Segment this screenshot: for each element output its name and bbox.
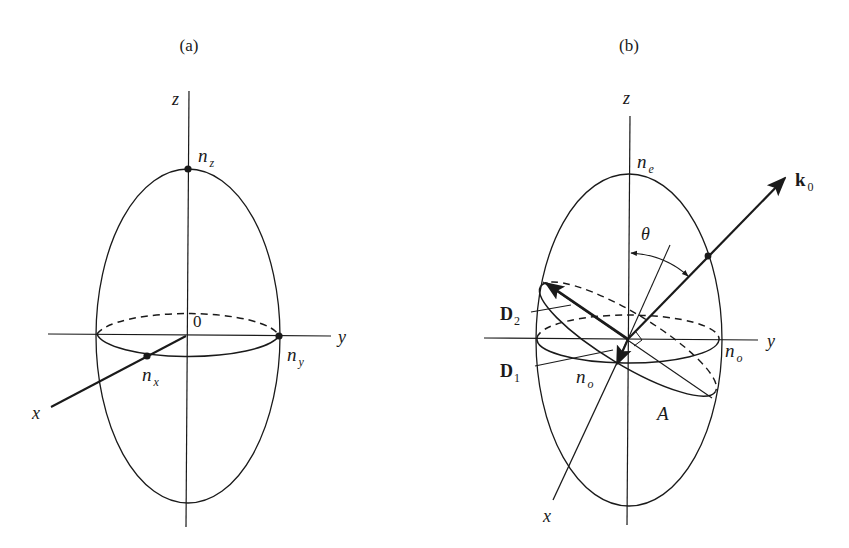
panel-a: (a) z y 0 x nz ny nx	[31, 36, 346, 527]
y-axis	[48, 334, 331, 336]
y-axis	[484, 338, 758, 340]
k0-surface-point	[705, 253, 712, 260]
d2-label: D2	[500, 304, 520, 328]
no-front-label: no	[576, 366, 594, 391]
x-axis-label: x	[31, 403, 40, 423]
z-axis-label: z	[622, 88, 630, 108]
theta-label: θ	[641, 224, 650, 244]
z-axis-label: z	[171, 89, 179, 109]
z-axis	[186, 91, 189, 527]
theta-angle-arc	[631, 253, 688, 276]
d1-label: D1	[500, 361, 520, 385]
z-axis	[627, 116, 630, 525]
nx-point	[143, 352, 150, 359]
ne-label: ne	[637, 151, 655, 176]
y-axis-label: y	[336, 327, 346, 347]
nz-label: nz	[198, 145, 215, 170]
d1-leader-line	[535, 350, 613, 366]
panel-b: (b) z y x θ	[484, 36, 814, 526]
k0-label: k0	[795, 169, 814, 194]
origin-label: 0	[193, 312, 202, 331]
nz-point	[184, 165, 191, 172]
x-axis-label: x	[542, 506, 551, 526]
y-axis-label: y	[765, 331, 775, 351]
d1-vector-arrow	[617, 339, 628, 364]
panel-a-caption: (a)	[180, 36, 199, 55]
ny-label: ny	[287, 344, 305, 369]
panel-b-caption: (b)	[619, 36, 639, 55]
x-axis	[51, 336, 186, 407]
nx-label: nx	[142, 364, 160, 389]
no-right-label: no	[725, 340, 743, 365]
index-ellipsoid-figure: (a) z y 0 x nz ny nx (b) z y	[0, 0, 849, 548]
tilted-reference-line	[628, 245, 670, 339]
optic-axis-label: A	[655, 403, 669, 424]
equator-front	[97, 334, 279, 356]
ny-point	[275, 332, 282, 339]
d2-vector-arrow	[546, 283, 628, 339]
